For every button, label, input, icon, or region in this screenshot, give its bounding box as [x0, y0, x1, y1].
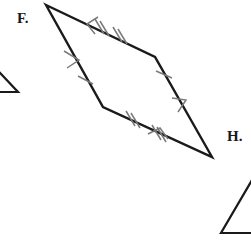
triangle-left-partial — [0, 58, 18, 92]
triangle-h-outline — [221, 163, 251, 233]
arrow-top-side — [87, 17, 98, 34]
arrow-left-side — [64, 51, 79, 68]
parallelogram-f — [46, 5, 212, 157]
figure-label-h: H. — [227, 129, 242, 144]
triangle-left-outline — [0, 58, 18, 92]
figure-label-f: F. — [17, 11, 29, 26]
triangle-h-partial — [221, 163, 251, 233]
geometry-figure-svg — [0, 0, 251, 243]
parallelogram-f-outline — [46, 5, 212, 157]
worksheet-canvas: F. H. — [0, 0, 251, 243]
